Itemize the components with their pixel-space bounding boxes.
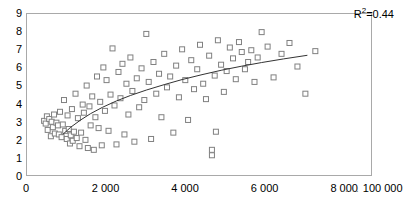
data-point-marker: [213, 129, 218, 134]
data-point-marker: [209, 153, 214, 158]
axis-break-value: 100 000: [363, 182, 403, 194]
data-point-marker: [209, 147, 214, 152]
data-point-marker: [106, 128, 111, 133]
data-point-marker: [249, 48, 254, 53]
data-point-marker: [195, 67, 200, 72]
data-point-marker: [83, 137, 88, 142]
data-point-marker: [203, 97, 208, 102]
data-point-marker: [71, 129, 76, 134]
x-tick-label: 0: [0, 183, 66, 194]
data-point-marker: [279, 51, 284, 56]
y-tick-label: 0: [0, 170, 22, 182]
data-point-marker: [65, 113, 70, 118]
data-point-marker: [79, 130, 84, 135]
r-squared-annotation: R2=0.44: [354, 8, 394, 20]
y-tick-label: 3: [0, 116, 22, 128]
data-point-marker: [52, 112, 57, 117]
data-point-marker: [176, 95, 181, 100]
x-tick-label: 4 000: [145, 183, 225, 194]
data-point-marker: [87, 104, 92, 109]
data-point-marker: [122, 132, 127, 137]
data-point-marker: [313, 49, 318, 54]
data-point-marker: [96, 126, 101, 131]
data-point-marker: [60, 122, 65, 127]
data-point-marker: [137, 105, 142, 110]
data-point-marker: [265, 44, 270, 49]
data-point-marker: [75, 116, 80, 121]
data-point-marker: [287, 40, 292, 45]
data-point-marker: [149, 136, 154, 141]
data-point-marker: [88, 123, 93, 128]
data-point-marker: [99, 143, 104, 148]
data-point-marker: [212, 73, 217, 78]
data-point-marker: [101, 65, 106, 70]
data-point-marker: [162, 51, 167, 56]
data-point-marker: [219, 62, 224, 67]
scatter-plot-svg: [27, 14, 373, 177]
data-point-marker: [116, 69, 121, 74]
data-point-marker: [84, 83, 89, 88]
x-tick-label: 6 000: [225, 183, 305, 194]
data-point-marker: [295, 64, 300, 69]
y-tick-label: 4: [0, 98, 22, 110]
data-point-marker: [73, 91, 78, 96]
data-point-marker: [246, 59, 251, 64]
data-point-marker: [144, 31, 149, 36]
data-point-marker: [130, 88, 135, 93]
data-point-marker: [239, 50, 244, 55]
data-point-marker: [142, 98, 147, 103]
data-point-marker: [90, 94, 95, 99]
data-point-marker: [231, 56, 236, 61]
data-point-marker: [108, 92, 113, 97]
data-point-marker: [157, 71, 162, 76]
data-point-marker: [112, 103, 117, 108]
data-point-marker: [255, 55, 260, 60]
data-point-marker: [81, 110, 86, 115]
data-point-marker: [93, 115, 98, 120]
data-point-marker: [114, 142, 119, 147]
data-point-marker: [91, 147, 96, 152]
r-squared-prefix: R: [354, 8, 362, 20]
data-point-marker: [259, 30, 264, 35]
y-tick-label: 1: [0, 152, 22, 164]
chart-figure: 0123456789 R2=0.44 02 0004 0006 0008 000…: [0, 0, 408, 212]
y-tick-label: 9: [0, 7, 22, 19]
x-tick-label-axis-break: ..... 100 000: [332, 183, 408, 194]
data-point-marker: [174, 63, 179, 68]
data-point-marker: [132, 139, 137, 144]
data-point-marker: [134, 76, 139, 81]
data-point-marker: [201, 81, 206, 86]
data-point-marker: [56, 123, 61, 128]
data-point-marker: [85, 146, 90, 151]
data-point-marker: [77, 144, 82, 149]
data-point-marker: [45, 127, 50, 132]
data-point-marker: [271, 75, 276, 80]
data-point-marker: [102, 108, 107, 113]
data-point-marker: [242, 67, 247, 72]
data-point-marker: [104, 78, 109, 83]
data-point-marker: [171, 130, 176, 135]
data-point-marker: [180, 47, 185, 52]
data-point-marker: [80, 102, 85, 107]
data-point-marker: [58, 109, 63, 114]
data-point-marker: [207, 53, 212, 58]
data-point-marker: [128, 55, 133, 60]
plot-area: [26, 13, 372, 176]
data-point-marker: [98, 99, 103, 104]
data-point-marker: [303, 91, 308, 96]
y-tick-label: 8: [0, 25, 22, 37]
data-point-marker: [146, 79, 151, 84]
data-point-marker: [198, 42, 203, 47]
data-point-marker: [233, 77, 238, 82]
x-tick-label: 2 000: [66, 183, 146, 194]
y-tick-label: 2: [0, 134, 22, 146]
data-point-marker: [236, 40, 241, 45]
data-point-marker: [159, 115, 164, 120]
data-point-marker: [227, 45, 232, 50]
data-point-marker: [110, 46, 115, 51]
data-point-marker: [124, 81, 129, 86]
data-point-marker: [192, 87, 197, 92]
y-tick-label: 5: [0, 79, 22, 91]
data-point-marker: [61, 98, 66, 103]
r-squared-value: =0.44: [366, 8, 394, 20]
